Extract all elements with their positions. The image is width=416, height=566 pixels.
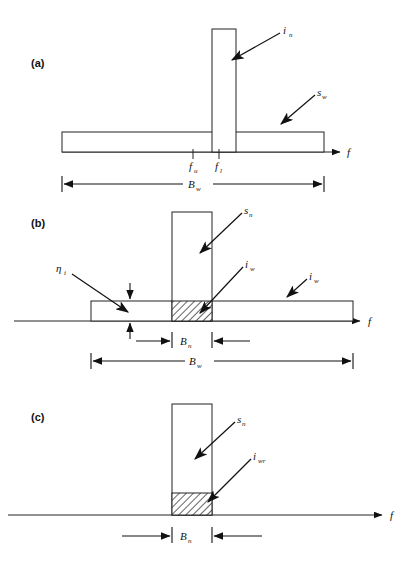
panel-b-label-wideband-subscript: w <box>314 277 319 285</box>
panel-a-axis-label: f <box>347 146 352 158</box>
panel-b-dimension-bw-subscript: w <box>197 362 202 370</box>
panel-b-overlap-hatched-region <box>172 301 212 321</box>
panel-c-label-signal-subscript: n <box>242 420 246 428</box>
panel-a-label-interference: i <box>283 24 286 36</box>
panel-b-dimension-bw-label: B <box>189 355 196 367</box>
panel-a-tick-label-fl-subscript: l <box>220 167 222 175</box>
panel-a-label-signal-subscript: w <box>322 93 327 101</box>
panel-b: (b) f s n η i i w i w <box>14 204 373 370</box>
panel-b-label-eta: η <box>56 262 61 274</box>
panel-b-axis-label: f <box>368 315 373 327</box>
panel-b-dimension-bn-subscript: n <box>188 342 192 350</box>
panel-b-label: (b) <box>31 217 45 229</box>
panel-c: (c) f s n i wr B n <box>8 404 395 545</box>
panel-a-tick-label-fu-subscript: u <box>194 167 198 175</box>
panel-a-leader-interference <box>232 33 280 60</box>
panel-b-dimension-bn-label: B <box>180 335 187 347</box>
panel-a-dimension-bw-label: B <box>188 178 195 190</box>
panel-b-label-overlap-subscript: w <box>250 265 255 273</box>
panel-c-leader-residual <box>208 459 251 502</box>
panel-c-dimension-bn-label: B <box>180 530 187 542</box>
panel-c-residual-hatched-region <box>172 493 212 515</box>
panel-c-label-residual-subscript: wr <box>258 457 266 465</box>
panel-a-dimension-bw-subscript: w <box>196 185 201 193</box>
panel-b-label-wideband: i <box>309 270 312 282</box>
panel-c-dimension-bn: B n <box>122 527 262 545</box>
panel-b-dimension-bw: B w <box>91 353 353 370</box>
panel-a: (a) f i n s w f u f l B w <box>31 24 352 193</box>
panel-c-label: (c) <box>31 411 45 423</box>
panel-c-label-residual: i <box>253 450 256 462</box>
panel-c-label-signal: s <box>237 413 241 425</box>
spectrum-diagram-figure: (a) f i n s w f u f l B w <box>0 0 416 566</box>
panel-a-leader-signal <box>281 95 315 124</box>
panel-a-dimension-bw: B w <box>62 176 324 193</box>
panel-c-axis-label: f <box>390 509 395 521</box>
panel-b-label-eta-subscript: i <box>64 269 66 277</box>
panel-b-wideband-interference-block <box>91 301 353 321</box>
panel-b-label-signal: s <box>244 204 248 216</box>
panel-b-label-signal-subscript: n <box>249 211 253 219</box>
panel-b-dimension-bn: B n <box>136 332 250 350</box>
panel-b-label-overlap: i <box>245 258 248 270</box>
panel-a-label-signal: s <box>317 86 321 98</box>
panel-c-dimension-bn-subscript: n <box>188 537 192 545</box>
panel-a-label-interference-subscript: n <box>289 31 293 39</box>
panel-a-label: (a) <box>31 57 45 69</box>
panel-a-narrowband-interference-block <box>212 29 236 152</box>
panel-b-leader-wideband <box>287 279 307 297</box>
